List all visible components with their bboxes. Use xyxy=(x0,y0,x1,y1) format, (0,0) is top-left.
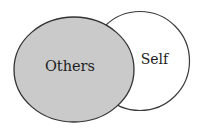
venn-diagram: Others Self xyxy=(0,0,200,129)
others-label: Others xyxy=(45,58,95,74)
self-label: Self xyxy=(141,51,170,67)
